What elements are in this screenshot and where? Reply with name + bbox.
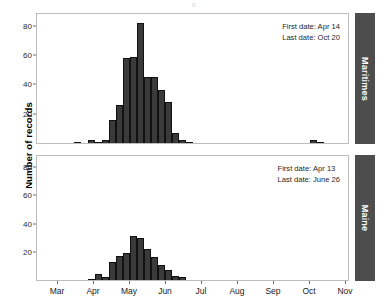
histogram-bar (317, 142, 324, 143)
strip-label-maritimes: Maritimes (355, 13, 375, 144)
y-tick-label: 60 (10, 191, 32, 200)
y-tick-mark (33, 55, 36, 56)
y-tick-label: 80 (10, 21, 32, 30)
x-tick-mark (309, 281, 310, 284)
x-tick-label: Jul (196, 286, 207, 296)
histogram-bar (179, 277, 186, 280)
cropped-panel-letter: e (192, 1, 196, 8)
y-tick-mark (33, 195, 36, 196)
panel-maine: First date: Apr 13 Last date: June 26 (36, 155, 349, 281)
y-axis-bottom: 20406080 (0, 155, 32, 281)
x-tick-mark (93, 281, 94, 284)
y-tick-mark (33, 167, 36, 168)
x-tick-mark (237, 281, 238, 284)
last-date-maritimes: Last date: Oct 20 (282, 32, 340, 43)
y-tick-mark (33, 251, 36, 252)
y-tick-label: 80 (10, 163, 32, 172)
x-tick-label: Aug (229, 286, 244, 296)
x-tick-mark (129, 281, 130, 284)
y-tick-mark (33, 84, 36, 85)
y-tick-mark (33, 223, 36, 224)
x-tick-label: Nov (337, 286, 352, 296)
x-tick-mark (165, 281, 166, 284)
x-tick-label: May (121, 286, 137, 296)
y-axis-top: 20406080 (0, 13, 32, 144)
histogram-bar (186, 142, 193, 143)
x-tick-label: Sep (265, 286, 280, 296)
first-date-maine: First date: Apr 13 (278, 163, 341, 174)
y-tick-label: 40 (10, 80, 32, 89)
annotation-maine: First date: Apr 13 Last date: June 26 (278, 163, 341, 185)
annotation-maritimes: First date: Apr 14 Last date: Oct 20 (282, 21, 340, 43)
y-tick-label: 20 (10, 247, 32, 256)
x-tick-label: Apr (86, 286, 99, 296)
figure-root: e Number of records 20406080 First date:… (0, 0, 391, 306)
y-tick-mark (33, 25, 36, 26)
x-tick-mark (273, 281, 274, 284)
x-tick-mark (201, 281, 202, 284)
y-tick-label: 40 (10, 219, 32, 228)
strip-label-maine: Maine (355, 155, 375, 281)
histogram-bar (74, 142, 81, 143)
y-tick-label: 20 (10, 109, 32, 118)
x-tick-label: Jun (158, 286, 172, 296)
strip-text-maine: Maine (360, 205, 370, 232)
x-tick-mark (57, 281, 58, 284)
first-date-maritimes: First date: Apr 14 (282, 21, 340, 32)
x-tick-label: Oct (302, 286, 315, 296)
y-tick-mark (33, 113, 36, 114)
last-date-maine: Last date: June 26 (278, 174, 341, 185)
x-tick-mark (345, 281, 346, 284)
x-tick-label: Mar (50, 286, 65, 296)
y-tick-label: 60 (10, 51, 32, 60)
strip-text-maritimes: Maritimes (360, 57, 370, 101)
panel-maritimes: First date: Apr 14 Last date: Oct 20 (36, 13, 349, 144)
